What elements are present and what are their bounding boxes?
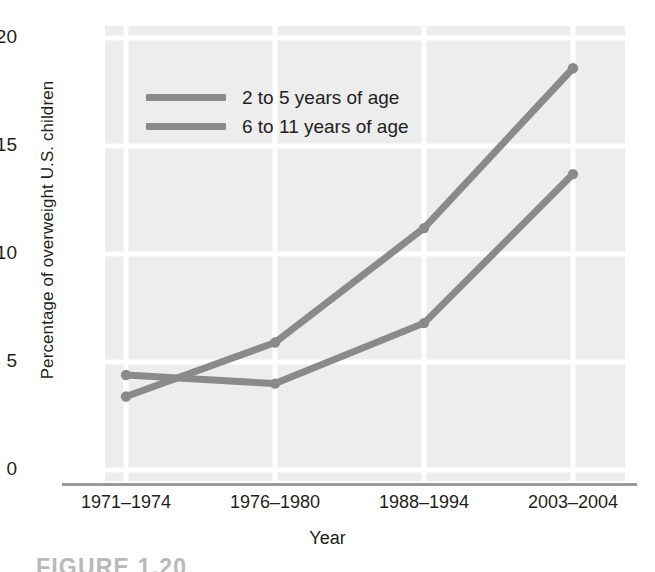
legend-label: 6 to 11 years of age (242, 116, 409, 138)
x-tick-label: 1971–1974 (51, 492, 201, 513)
legend-swatch-icon (146, 123, 226, 130)
y-tick-label: 5 (0, 351, 17, 370)
y-tick-label: 0 (0, 459, 17, 478)
legend-item: 2 to 5 years of age (146, 83, 409, 112)
legend-swatch-icon (146, 94, 226, 101)
x-axis-title: Year (0, 528, 655, 549)
legend-label: 2 to 5 years of age (242, 87, 399, 109)
chart-legend: 2 to 5 years of age 6 to 11 years of age (146, 83, 409, 141)
figure-caption: FIGURE 1.20 (36, 554, 187, 572)
y-tick-label: 20 (0, 27, 17, 46)
x-axis-line (62, 483, 637, 486)
x-tick-label: 1988–1994 (349, 492, 499, 513)
y-tick-label: 10 (0, 243, 17, 262)
legend-item: 6 to 11 years of age (146, 112, 409, 141)
x-tick-label: 1976–1980 (200, 492, 350, 513)
y-tick-label: 15 (0, 135, 17, 154)
x-tick-label: 2003–2004 (498, 492, 648, 513)
figure-container: Percentage of overweight U.S. children 2… (0, 0, 655, 572)
